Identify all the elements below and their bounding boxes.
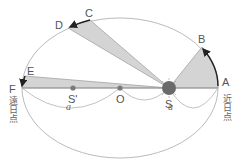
label-c: C	[85, 7, 93, 19]
label-f: F	[9, 83, 16, 95]
sector-A-B	[169, 47, 218, 88]
label-semi-major-left: a	[66, 101, 71, 112]
semi-major-arc-O-S	[120, 88, 169, 100]
label-aphelion: 遠日点	[8, 95, 18, 124]
sector-C-D	[68, 20, 169, 88]
label-d: D	[55, 19, 63, 31]
semi-major-arc-right	[169, 88, 218, 108]
label-a: A	[222, 76, 230, 88]
kepler-orbit-diagram: A B C D E F S O S' a a 近日点 遠日点	[0, 0, 242, 163]
label-b: B	[198, 33, 205, 45]
sector-E-F	[22, 76, 169, 88]
center-o-dot	[117, 85, 122, 90]
label-perihelion: 近日点	[222, 93, 232, 122]
sun-icon	[159, 78, 179, 98]
label-o: O	[116, 93, 125, 105]
label-semi-major-right: a	[168, 101, 173, 112]
focus-s-prime-dot	[70, 85, 75, 90]
label-e: E	[27, 65, 34, 77]
